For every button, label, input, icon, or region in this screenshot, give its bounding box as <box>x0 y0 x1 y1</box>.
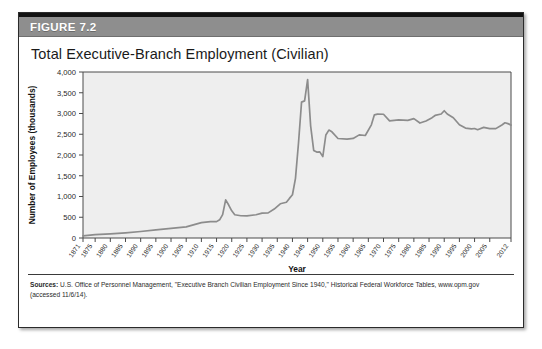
x-tick-label: 1945 <box>292 242 306 258</box>
x-tick-label: 1990 <box>428 242 442 258</box>
employment-line-chart: 05001,0001,5002,0002,5003,0003,5004,0001… <box>19 66 525 272</box>
chart-container: 05001,0001,5002,0002,5003,0003,5004,0001… <box>19 66 523 272</box>
x-tick-label: 1980 <box>398 242 412 258</box>
x-axis-title: Year <box>288 264 306 272</box>
y-tick-label: 3,500 <box>57 89 76 98</box>
x-tick-label: 1930 <box>246 242 260 258</box>
x-tick-label: 1885 <box>110 242 124 258</box>
y-axis-title: Number of Employees (thousands) <box>27 85 37 224</box>
x-tick-label: 1955 <box>322 242 336 258</box>
x-tick-label: 1995 <box>444 242 458 258</box>
y-tick-label: 2,000 <box>57 151 76 160</box>
x-tick-label: 2000 <box>459 242 473 258</box>
x-tick-label: 2012 <box>495 242 509 258</box>
x-tick-label: 1985 <box>413 242 427 258</box>
y-tick-label: 500 <box>63 213 76 222</box>
x-tick-label: 1871 <box>67 242 81 258</box>
x-tick-label: 1965 <box>353 242 367 258</box>
y-tick-label: 2,500 <box>57 130 76 139</box>
x-tick-label: 1890 <box>125 242 139 258</box>
x-tick-label: 1970 <box>368 242 382 258</box>
x-tick-label: 1950 <box>307 242 321 258</box>
x-tick-label: 1975 <box>383 242 397 258</box>
x-tick-label: 1960 <box>337 242 351 258</box>
x-tick-label: 1880 <box>94 242 108 258</box>
source-label: Sources: <box>30 281 58 288</box>
figure-number-label: FIGURE 7.2 <box>19 21 97 33</box>
y-tick-label: 1,500 <box>57 172 76 181</box>
y-tick-label: 1,000 <box>57 192 76 201</box>
x-tick-label: 1915 <box>201 242 215 258</box>
figure-panel: FIGURE 7.2 Total Executive-Branch Employ… <box>18 12 524 328</box>
y-tick-label: 0 <box>72 234 76 243</box>
figure-title: Total Executive-Branch Employment (Civil… <box>19 37 523 66</box>
x-tick-label: 1925 <box>231 242 245 258</box>
x-tick-label: 1905 <box>170 242 184 258</box>
y-tick-label: 3,000 <box>57 109 76 118</box>
x-tick-label: 1920 <box>216 242 230 258</box>
x-tick-label: 1875 <box>79 242 93 258</box>
x-tick-label: 2005 <box>474 242 488 258</box>
source-text: U.S. Office of Personnel Management, "Ex… <box>30 281 479 298</box>
figure-header-bar: FIGURE 7.2 <box>19 17 523 37</box>
x-tick-label: 1910 <box>186 242 200 258</box>
x-tick-label: 1935 <box>261 242 275 258</box>
y-tick-label: 4,000 <box>57 68 76 77</box>
x-tick-label: 1940 <box>277 242 291 258</box>
x-tick-label: 1900 <box>155 242 169 258</box>
x-tick-label: 1895 <box>140 242 154 258</box>
source-note: Sources: U.S. Office of Personnel Manage… <box>19 275 523 300</box>
